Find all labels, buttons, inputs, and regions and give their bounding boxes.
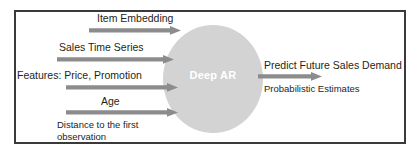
- deep-ar-node-label: Deep AR: [163, 68, 263, 82]
- input-arrow-features-price-promotion: [66, 83, 178, 92]
- input-label-distance-to-first-observation: Distance to the first observation: [57, 119, 167, 143]
- output-label-predict-future-sales-demand: Predict Future Sales Demand: [264, 59, 402, 71]
- input-label-item-embedding: Item Embedding: [97, 12, 173, 24]
- input-label-age: Age: [101, 95, 120, 107]
- output-arrow-predict-future-sales-demand: [258, 72, 322, 81]
- diagram-canvas: Deep AR Item Embedding Sales Time Series…: [0, 0, 420, 156]
- input-arrow-age: [66, 108, 178, 117]
- input-arrow-item-embedding: [89, 26, 181, 35]
- output-label-probabilistic-estimates: Probabilistic Estimates: [264, 83, 360, 95]
- input-arrow-sales-time-series: [57, 55, 174, 64]
- input-label-sales-time-series: Sales Time Series: [59, 41, 144, 53]
- input-label-features-price-promotion: Features: Price, Promotion: [17, 69, 142, 81]
